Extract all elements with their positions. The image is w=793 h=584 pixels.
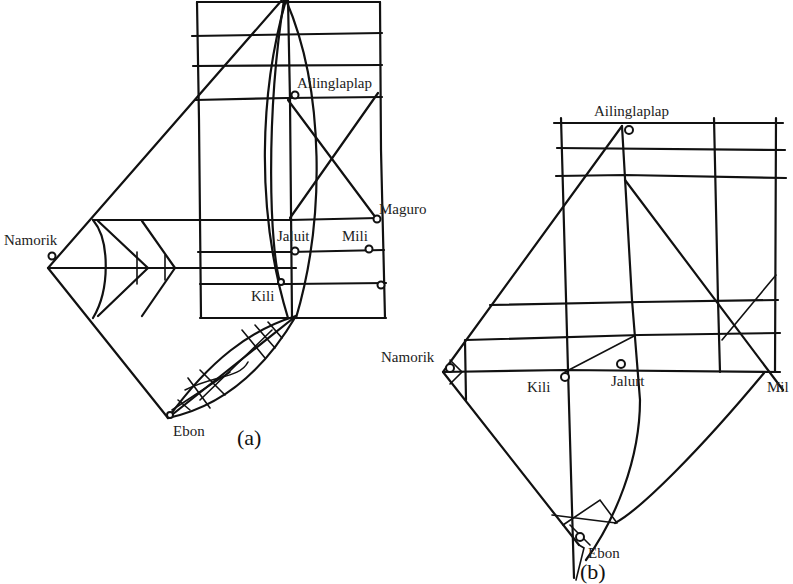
panel-b-caption: (b) (580, 561, 606, 583)
island-label-ailinglaplap-b: Ailinglaplap (594, 104, 669, 119)
island-label-namorik-b: Namorik (381, 350, 434, 365)
island-label-mil-b: Mil (767, 380, 789, 395)
island-label-jalurt-b: Jalurt (611, 374, 644, 389)
island-label-kili-b: Kili (527, 380, 550, 395)
